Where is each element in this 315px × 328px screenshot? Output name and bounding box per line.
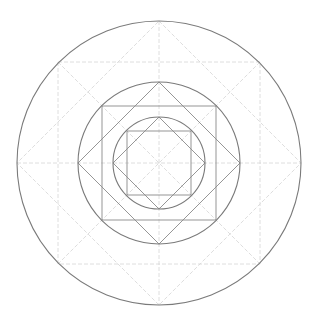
geometric-diagram [0,0,315,328]
